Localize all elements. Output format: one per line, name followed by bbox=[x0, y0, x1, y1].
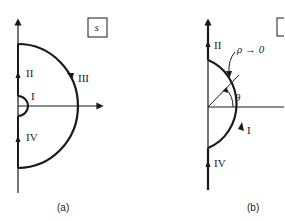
figure-a: II I III IV s (a) bbox=[16, 18, 108, 213]
plane-box-b bbox=[277, 18, 284, 36]
label-III-a: III bbox=[78, 72, 89, 84]
caption-a: (a) bbox=[57, 202, 69, 213]
rho-label: ρ → 0 bbox=[236, 43, 265, 55]
label-IV-a: IV bbox=[26, 131, 38, 143]
rho-leader bbox=[229, 52, 235, 73]
label-I-a: I bbox=[31, 90, 35, 102]
arrow-IV-icon bbox=[16, 135, 21, 142]
label-IV-b: IV bbox=[214, 157, 226, 169]
s-plane-label: s bbox=[95, 21, 99, 33]
label-I-b: I bbox=[247, 124, 251, 136]
label-II-b: II bbox=[214, 39, 222, 51]
contour-diagram: II I III IV s (a) II ρ → 0 θ I IV (b) bbox=[0, 0, 284, 221]
caption-b: (b) bbox=[247, 202, 259, 213]
theta-label: θ bbox=[235, 91, 241, 103]
arc-I-b bbox=[208, 60, 237, 148]
label-II-a: II bbox=[26, 67, 34, 79]
arrow-II-b-icon bbox=[206, 40, 211, 47]
arrow-I-b-icon bbox=[238, 122, 244, 131]
arrow-II-icon bbox=[16, 71, 21, 78]
arrow-IV-b-icon bbox=[206, 160, 211, 167]
figure-b: II ρ → 0 θ I IV (b) bbox=[206, 18, 285, 213]
